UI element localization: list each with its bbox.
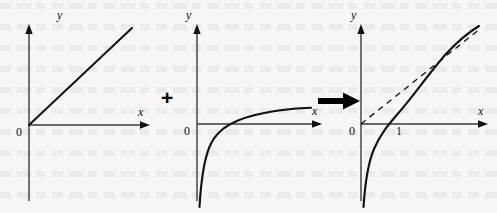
panel-sum-tick-label-one: 1 [396,125,402,137]
panel-line-x-axis-arrowhead [140,121,150,128]
panel-log-x-axis-arrowhead [312,120,322,127]
plus-operator: + [161,87,173,108]
logarithm-curve [200,108,312,207]
panel-sum-y-axis-arrowhead [357,24,364,34]
panel-sum-origin-label: 0 [349,125,355,137]
panel-log-y-axis-label: y [186,9,191,21]
panel-sum-x-axis-arrowhead [478,120,488,127]
identity-line-curve [29,28,132,125]
asymptote-line-dashed [361,28,481,124]
panel-line-origin-label: 0 [16,126,22,138]
panel-log-origin-label: 0 [184,125,190,137]
panel-line-y-axis-arrowhead [25,24,32,34]
panel-log-y-axis-arrowhead [193,24,200,34]
panel-sum-y-axis-label: y [351,9,356,21]
figure-container: y x 0 + y x 0 y x 0 1 [0,0,497,213]
panel-sum-graph [345,0,497,213]
panel-sum-x-axis-label: x [478,105,483,117]
sum-curve [364,26,480,207]
panel-line-x-axis-label: x [138,106,143,118]
panel-line-y-axis-label: y [57,9,62,21]
